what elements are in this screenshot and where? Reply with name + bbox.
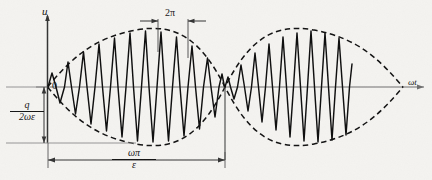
origin-label: 0 (52, 81, 57, 91)
beat-period-label: ωπ ε (112, 148, 156, 170)
beat-denominator: ε (112, 159, 156, 171)
beat-numerator: ωπ (112, 148, 156, 159)
period-arrow-right-icon (188, 19, 195, 24)
beat-arrow-left-icon (48, 158, 55, 163)
period-arrow-left-icon (152, 19, 159, 24)
amplitude-arrow-up-icon (42, 87, 47, 94)
x-axis-label: ωt (408, 78, 417, 87)
beat-waveform-plot (0, 0, 432, 180)
x-axis-arrow-icon (417, 85, 424, 90)
beat-arrow-right-icon (218, 158, 225, 163)
figure-beats-waveform: u ωt 0 2π q 2ωε ωπ ε (0, 0, 432, 180)
amplitude-numerator: q (10, 100, 44, 111)
amplitude-arrow-down-icon (42, 137, 47, 144)
amplitude-label: q 2ωε (10, 100, 44, 122)
period-label: 2π (165, 8, 175, 18)
y-axis-label: u (42, 6, 48, 17)
amplitude-denominator: 2ωε (10, 111, 44, 123)
